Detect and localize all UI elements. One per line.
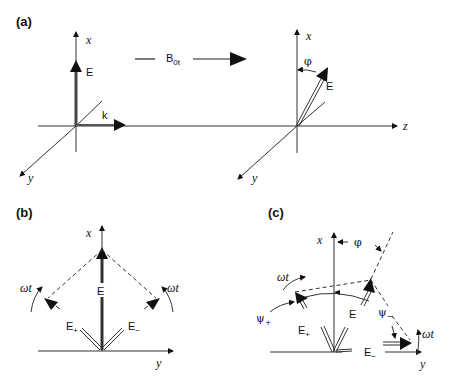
- y-axis-label: y: [155, 356, 162, 370]
- b-field-arrowhead-icon: [230, 52, 247, 66]
- diagram-canvas: (a) x y E k B0t: [0, 0, 449, 380]
- psi-plus-arc: [270, 302, 294, 312]
- phi-label: φ: [304, 55, 312, 68]
- arc-arrowhead-icon: [334, 290, 340, 295]
- e-arrowhead-icon: [363, 278, 375, 293]
- omega-t-right: ωt: [422, 327, 434, 341]
- e-vector-label: E: [349, 308, 356, 320]
- z-axis-label: z: [402, 119, 408, 133]
- rotation-arc-left: [31, 287, 42, 312]
- x-axis-label: x: [316, 233, 323, 247]
- x-axis-label: x: [85, 226, 92, 240]
- x-axis-label: x: [85, 33, 92, 47]
- psi-plus-label: ψ+: [256, 312, 271, 327]
- x-axis-label: x: [305, 29, 312, 43]
- phi-arrow-right: [375, 245, 381, 251]
- phi-arc: [298, 70, 316, 72]
- e-vector-label: E: [97, 285, 104, 297]
- omega-t-right: ωt: [167, 281, 179, 295]
- y-axis-label: y: [251, 171, 258, 185]
- e-minus-arrowhead-icon: [400, 337, 412, 350]
- e-plus-arrowhead-icon: [295, 292, 308, 304]
- panel-a-label: (a): [16, 14, 32, 29]
- e-vector-label: E: [86, 66, 93, 78]
- y-axis-label: y: [27, 171, 34, 185]
- e-minus-label: E−: [128, 320, 140, 335]
- psi-minus-arc: [392, 326, 395, 338]
- rotation-arc-right: [417, 330, 419, 355]
- k-arrowhead-icon: [114, 119, 126, 131]
- e-plus-label: E+: [66, 320, 78, 335]
- dashed-line: [371, 280, 388, 306]
- phi-label: φ: [354, 236, 362, 249]
- b-field-label: B0t: [166, 52, 181, 67]
- e-minus-arrowhead-icon: [146, 298, 160, 310]
- panel-a-left-axes: x y E k: [20, 32, 225, 185]
- arc-connector: [305, 293, 369, 301]
- panel-b-label: (b): [16, 205, 33, 220]
- dashed-line: [295, 280, 371, 292]
- panel-c-label: (c): [268, 205, 284, 220]
- y-axis: [20, 126, 76, 176]
- y-axis-neg: [76, 101, 102, 126]
- omega-t-left: ωt: [277, 270, 289, 284]
- y-axis: [238, 126, 297, 179]
- e-arrowhead-icon: [96, 247, 108, 259]
- k-vector-label: k: [102, 109, 108, 121]
- panel-b: (b) y x E E+ E− ωt ωt: [16, 205, 179, 370]
- dashed-line: [371, 232, 393, 279]
- psi-minus-label: ψ−: [378, 306, 393, 321]
- b-field-arrow: B0t: [135, 52, 247, 67]
- e-minus-label: E−: [364, 346, 376, 361]
- panel-a-right-axes: z x y E φ: [225, 29, 408, 185]
- e-vector-label: E: [326, 80, 333, 92]
- e-plus-arrowhead-icon: [44, 298, 58, 310]
- y-axis-label: y: [419, 357, 426, 371]
- e-arrowhead-icon: [70, 60, 82, 72]
- panel-c: (c) y x φ E+ E E−: [256, 205, 434, 371]
- dashed-line: [48, 250, 102, 298]
- omega-t-left: ωt: [20, 281, 32, 295]
- e-plus-label: E+: [298, 324, 310, 339]
- dashed-line: [102, 250, 156, 298]
- panel-a: (a) x y E k B0t: [16, 14, 408, 185]
